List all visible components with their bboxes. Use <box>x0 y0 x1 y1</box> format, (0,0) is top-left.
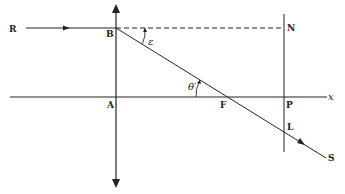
label-S: S <box>328 153 335 163</box>
label-x: x <box>328 91 334 102</box>
diagram: R B N A F P L S x ε θ′ <box>0 0 345 194</box>
label-F: F <box>220 100 227 110</box>
label-P: P <box>286 100 293 110</box>
label-B: B <box>106 29 114 39</box>
label-L: L <box>287 122 294 132</box>
label-A: A <box>106 100 115 110</box>
refracted-ray-arrow-icon <box>297 138 305 145</box>
epsilon-arrow-icon <box>143 28 147 32</box>
lens-bottom-arrow-icon <box>112 179 120 188</box>
label-epsilon: ε <box>148 36 153 47</box>
label-theta-prime: θ′ <box>188 81 197 92</box>
lens-top-arrow-icon <box>112 4 120 13</box>
refracted-ray <box>116 28 326 158</box>
label-R: R <box>9 24 17 34</box>
diagram-canvas: R B N A F P L S x ε θ′ <box>0 0 345 194</box>
incident-ray-arrow-icon <box>63 26 70 31</box>
label-N: N <box>287 23 295 33</box>
